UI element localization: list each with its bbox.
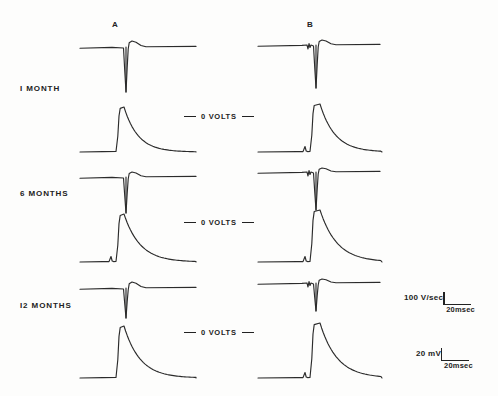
derivative-trace-line [80,41,196,92]
trace-derivative-b-6-months [258,168,380,210]
trace-derivative-b-i-month [258,40,380,88]
trace-action-potential-a-i-month [80,107,196,152]
calibration-derivative-mark: 20msec [443,292,473,314]
trace-derivative-b-i2-months [258,279,380,311]
trace-action-potential-a-6-months [80,214,196,262]
trace-action-potential-b-6-months [258,210,382,262]
trace-action-potential-a-i2-months [80,326,196,378]
action-potential-trace-line [258,210,382,262]
calibration-derivative-time: 20msec [446,305,475,314]
derivative-trace-line [80,282,196,318]
derivative-trace-line [258,279,380,311]
calibration-potential-time: 20msec [444,361,473,370]
calibration-derivative-value: 100 V/sec [404,292,443,302]
calibration-potential-value: 20 mV [416,348,441,358]
derivative-trace-line [80,172,196,213]
calibration-derivative: 100 V/sec 20msec [404,292,473,314]
trace-derivative-a-i-month [80,41,196,92]
action-potential-trace-line [80,326,196,378]
action-potential-trace-line [258,104,382,152]
calibration-potential-mark: 20msec [441,348,471,370]
action-potential-trace-line [80,214,196,262]
action-potential-trace-line [80,107,196,152]
electrophysiology-figure: A B I MONTH 6 MONTHS I2 MONTHS 0 VOLTS 0… [0,0,498,396]
trace-action-potential-b-i-month [258,104,382,152]
trace-action-potential-b-i2-months [258,323,382,378]
calibration-potential: 20 mV 20msec [416,348,471,370]
trace-derivative-a-6-months [80,172,196,213]
trace-layer [0,0,498,396]
action-potential-trace-line [258,323,382,378]
trace-derivative-a-i2-months [80,282,196,318]
derivative-trace-line [258,168,380,210]
derivative-trace-line [258,40,380,88]
